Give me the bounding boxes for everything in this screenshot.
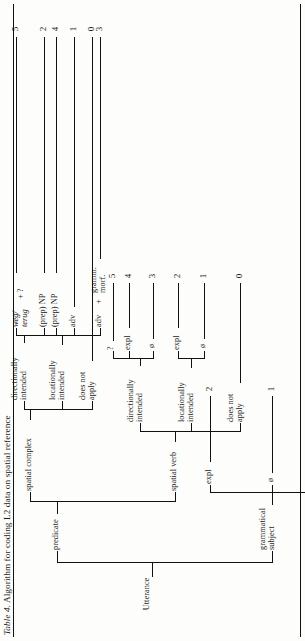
edge-sc-out xyxy=(30,410,31,420)
sc-loc-line2: intended xyxy=(57,371,66,400)
edge-predicate-in xyxy=(57,551,58,563)
node-sv-dir-expl: expl xyxy=(123,336,132,351)
table-caption-text: Algorithm for coding L2 data on spatial … xyxy=(2,415,12,603)
node-predicate: predicate xyxy=(51,519,60,550)
edge-sc-dir-prep-np-score xyxy=(56,37,57,273)
sv-dir-line2: intended xyxy=(135,393,144,422)
edge-gs-zero xyxy=(272,485,273,493)
node-sv-dir-zero: ø xyxy=(147,344,156,348)
sc-dir-gramm-line2: morf. xyxy=(98,275,107,293)
node-spatial-complex: spatial complex xyxy=(24,438,33,491)
node-sv-directionally-intended: directionally intended xyxy=(126,379,144,422)
edge-sv-loc-in xyxy=(191,423,192,432)
node-spatial-verb: spatial verb xyxy=(169,452,178,491)
score-sv-dir-expl: 4 xyxy=(123,274,133,279)
edge-sc-dir-weg-score xyxy=(16,37,17,273)
sv-loc-line1: locationally xyxy=(177,382,186,422)
score-sv-dir-zero: 3 xyxy=(147,274,157,279)
node-sc-loc-prep-np: (prep) NP xyxy=(38,294,47,327)
edge-sc-loc-prep-np-score xyxy=(44,37,45,273)
edge-sc-dir-weg xyxy=(16,328,17,336)
score-sv-loc-zero: 1 xyxy=(198,274,208,279)
sc-dir-terug: terug xyxy=(20,309,29,327)
edge-sv-loc-zero xyxy=(204,351,205,359)
table-rule-bottom xyxy=(300,4,301,637)
edge-sv-dir-fan xyxy=(113,358,153,359)
node-sv-loc-zero: ø xyxy=(198,344,207,348)
table-figure-page: Table 4. Algorithm for coding L2 data on… xyxy=(0,0,305,641)
node-sc-dir-gramm-morf: gramm. morf. xyxy=(89,267,107,293)
edge-sv-loc-out xyxy=(191,359,192,368)
sv-dir-line1: directionally xyxy=(126,379,135,422)
node-utterance: Utterance xyxy=(142,578,151,611)
node-grammatical-subject: grammatical subject xyxy=(258,508,276,550)
edge-sc-dir-adv-score xyxy=(100,37,101,259)
edge-root-spine xyxy=(57,562,272,563)
sv-loc-line2: intended xyxy=(186,393,195,422)
edge-sc-in xyxy=(30,492,31,502)
edge-sv-dir-out xyxy=(140,359,141,366)
table-caption: Table 4. Algorithm for coding L2 data on… xyxy=(2,415,12,635)
edge-gs-in xyxy=(272,551,273,563)
sc-dna-line2: apply xyxy=(87,381,96,400)
node-sc-dir-plus-question: + ? xyxy=(16,288,25,299)
node-sv-does-not-apply: does not apply xyxy=(226,394,244,422)
sc-loc-line1: locationally xyxy=(48,360,57,400)
node-sc-loc-adv: adv xyxy=(68,315,77,327)
rotated-page-canvas: Table 4. Algorithm for coding L2 data on… xyxy=(0,0,305,641)
score-sv-dir-question: 5 xyxy=(107,274,117,279)
score-gs-expl: 2 xyxy=(204,387,214,392)
score-sc-dir-prep-np: 4 xyxy=(50,27,60,32)
edge-sv-dna xyxy=(240,423,241,432)
edge-sc-dna xyxy=(92,401,93,410)
edge-sc-loc-in xyxy=(62,401,63,410)
grammatical-subject-line2: subject xyxy=(267,526,276,550)
node-gs-zero: ø xyxy=(266,478,275,482)
edge-sv-loc-expl xyxy=(178,351,179,359)
edge-sv-loc-zero-score xyxy=(204,283,205,339)
edge-gs-zero-score xyxy=(272,396,273,473)
sv-dna-line2: apply xyxy=(235,403,244,422)
edge-sv-loc-expl-score xyxy=(178,283,179,328)
sc-dir-weg: weg/ xyxy=(11,311,20,327)
sc-dna-line1: does not xyxy=(78,372,87,400)
sv-dna-line1: does not xyxy=(226,394,235,422)
edge-root-stem xyxy=(152,563,153,577)
edge-sc-dir-fan xyxy=(16,335,100,336)
edge-sv-dir-in xyxy=(140,423,141,432)
edge-sc-loc-adv-score xyxy=(74,37,75,307)
edge-sv-fan xyxy=(140,431,240,432)
edge-sv-in xyxy=(175,492,176,502)
edge-sc-dir-adv xyxy=(100,328,101,336)
sc-dir-line2: intended xyxy=(19,371,28,400)
score-sc-dir-adv-gramm: 3 xyxy=(94,27,104,32)
edge-sv-dir-zero-score xyxy=(153,283,154,339)
node-sc-locationally-intended: locationally intended xyxy=(48,360,66,400)
edge-sv-dir-zero xyxy=(153,351,154,359)
table-caption-number: Table 4. xyxy=(2,605,12,635)
edge-sc-dna-score xyxy=(92,37,93,361)
edge-gs-expl xyxy=(210,485,211,493)
score-sv-does-not-apply: 0 xyxy=(234,274,244,279)
edge-sc-loc-out xyxy=(62,336,63,345)
sc-dir-gramm-line1: gramm. xyxy=(89,267,98,293)
edge-sv-dir-question-score xyxy=(113,283,114,341)
sc-dir-line1: directionally xyxy=(10,357,19,400)
edge-sv-dir-question xyxy=(113,351,114,359)
edge-predicate-out xyxy=(57,502,58,514)
node-sv-loc-expl: expl xyxy=(172,336,181,351)
node-sc-dir-prep-np: (prep) NP xyxy=(50,294,59,327)
edge-sv-dir-expl-score xyxy=(129,283,130,328)
score-sc-loc-adv: 1 xyxy=(68,27,78,32)
edge-sc-dir-out xyxy=(24,336,25,343)
node-sv-dir-question: ? xyxy=(106,346,115,350)
edge-sv-dna-score xyxy=(240,283,241,383)
edge-predicate-spine xyxy=(30,501,175,502)
edge-gs-out xyxy=(272,493,273,505)
edge-sc-fan xyxy=(24,409,92,410)
edge-sv-out xyxy=(175,432,176,442)
edge-gs-expl-score xyxy=(210,396,211,462)
score-gs-zero: 1 xyxy=(266,387,276,392)
score-sc-dir-weg-terug: 5 xyxy=(10,27,20,32)
score-sv-loc-expl: 2 xyxy=(172,274,182,279)
